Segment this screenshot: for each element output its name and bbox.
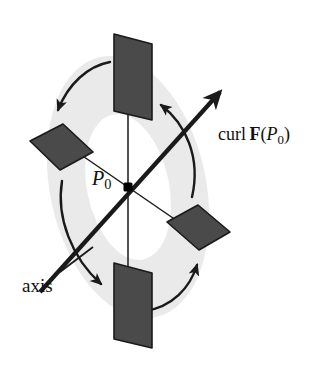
- curl-operator-text: curl: [218, 124, 246, 144]
- point-p0-subscript: 0: [104, 176, 111, 192]
- diagram-canvas: [0, 0, 328, 369]
- center-point-marker: [124, 183, 133, 192]
- torus-ring: [0, 0, 328, 369]
- paddle-bottom: [114, 263, 152, 348]
- axis-label: axis: [22, 276, 53, 295]
- curl-arg-symbol: P: [267, 124, 278, 144]
- curl-field-symbol: F: [250, 124, 261, 144]
- point-p0-label: P0: [92, 168, 111, 191]
- curl-vector-label: curl F(P0): [218, 125, 290, 147]
- curl-close-paren: ): [284, 124, 290, 144]
- axis-label-text: axis: [22, 275, 53, 296]
- paddle-top: [114, 34, 152, 120]
- point-p0-symbol: P: [92, 167, 104, 189]
- curl-paddle-wheel-figure: axis P0 curl F(P0): [0, 0, 328, 369]
